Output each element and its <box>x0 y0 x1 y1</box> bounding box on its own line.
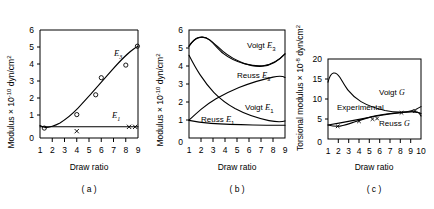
panel-c: Torsional modulus × 10-8 dyn/cm2 20 15 1… <box>293 0 434 209</box>
svg-text:4: 4 <box>357 146 362 156</box>
panel-b-curve-labels: Voigt E3 Reuss E3 Voigt E1 Reuss E1 <box>201 40 276 126</box>
panel-c-plot: Torsional modulus × 10-8 dyn/cm2 20 15 1… <box>293 0 434 209</box>
svg-text:7: 7 <box>111 145 116 155</box>
panel-b-caption: ( b ) <box>229 184 244 194</box>
svg-text:0: 0 <box>178 137 183 147</box>
panel-a-xlabel: Draw ratio <box>70 162 109 172</box>
panel-b-label-voigt-E3: Voigt E3 <box>247 40 276 52</box>
panel-c-ylabel: Torsional modulus × 10-8 dyn/cm2 <box>295 24 305 151</box>
svg-text:5: 5 <box>29 42 34 52</box>
panel-c-yticks: 20 15 10 5 0 <box>313 54 323 147</box>
svg-text:2: 2 <box>199 145 204 155</box>
svg-text:7: 7 <box>388 146 393 156</box>
panel-c-label-reuss-G: Reuss G <box>379 119 410 128</box>
svg-text:6: 6 <box>99 145 104 155</box>
svg-text:2: 2 <box>29 93 34 103</box>
panel-a-yticks: 6 5 4 3 2 1 0 <box>29 25 34 143</box>
svg-text:6: 6 <box>377 146 382 156</box>
svg-text:10: 10 <box>313 94 323 104</box>
svg-text:8: 8 <box>271 145 276 155</box>
svg-text:6: 6 <box>178 25 183 35</box>
panel-a-ylabel: Modulus × 10-10 dyn/cm2 <box>6 55 16 149</box>
svg-text:6: 6 <box>247 145 252 155</box>
svg-text:5: 5 <box>367 146 372 156</box>
svg-text:4: 4 <box>29 59 34 69</box>
panel-b: Modulus × 10-10 dyn/cm2 6 5 4 3 2 1 0 <box>145 0 293 209</box>
svg-text:9: 9 <box>408 146 413 156</box>
svg-text:5: 5 <box>317 114 322 124</box>
panel-a-label-E1: E1 <box>111 110 120 122</box>
panel-c-label-experimental: Experimental <box>337 103 384 112</box>
panel-c-caption: ( c ) <box>367 184 382 194</box>
svg-text:3: 3 <box>346 146 351 156</box>
three-panel-figure: Modulus × 10-10 dyn/cm2 6 5 4 3 2 1 0 <box>0 0 434 209</box>
panel-b-xtick-marks <box>201 138 273 142</box>
svg-text:4: 4 <box>178 61 183 71</box>
panel-a-label-E3: E3 <box>113 48 122 60</box>
svg-text:5: 5 <box>235 145 240 155</box>
panel-a: Modulus × 10-10 dyn/cm2 6 5 4 3 2 1 0 <box>0 0 145 209</box>
svg-text:1: 1 <box>187 145 192 155</box>
svg-text:2: 2 <box>50 145 55 155</box>
panel-a-plot: Modulus × 10-10 dyn/cm2 6 5 4 3 2 1 0 <box>0 0 145 209</box>
panel-b-label-voigt-E1: Voigt E1 <box>245 102 274 114</box>
svg-text:3: 3 <box>29 76 34 86</box>
svg-text:1: 1 <box>178 115 183 125</box>
svg-text:3: 3 <box>211 145 216 155</box>
panel-c-label-voigt-G: Voigt G <box>379 88 405 97</box>
panel-b-xticklabels: 1 2 3 4 5 6 7 8 9 <box>187 145 288 155</box>
svg-text:7: 7 <box>259 145 264 155</box>
panel-b-label-reuss-E3: Reuss E3 <box>237 70 271 82</box>
panel-a-series-E1-points <box>75 125 138 134</box>
svg-text:15: 15 <box>313 74 323 84</box>
panel-a-series-E3-curve <box>40 46 138 127</box>
svg-text:20: 20 <box>313 54 323 64</box>
svg-text:9: 9 <box>136 145 141 155</box>
svg-text:6: 6 <box>29 25 34 35</box>
svg-text:8: 8 <box>123 145 128 155</box>
panel-a-frame <box>40 30 138 138</box>
panel-c-xticklabels: 1 2 3 4 5 6 7 8 9 10 <box>326 146 426 156</box>
svg-text:10: 10 <box>416 146 426 156</box>
svg-text:0: 0 <box>29 133 34 143</box>
panel-b-xlabel: Draw ratio <box>218 162 257 172</box>
svg-text:3: 3 <box>178 79 183 89</box>
panel-b-ylabel: Modulus × 10-10 dyn/cm2 <box>155 53 165 147</box>
panel-b-plot: Modulus × 10-10 dyn/cm2 6 5 4 3 2 1 0 <box>145 0 293 209</box>
svg-text:5: 5 <box>87 145 92 155</box>
svg-text:4: 4 <box>223 145 228 155</box>
svg-text:9: 9 <box>283 145 288 155</box>
svg-text:1: 1 <box>29 110 34 120</box>
panel-c-xlabel: Draw ratio <box>355 162 394 172</box>
svg-text:5: 5 <box>178 43 183 53</box>
panel-c-xtick-marks <box>338 139 410 143</box>
svg-text:0: 0 <box>317 137 322 147</box>
panel-b-yticks: 6 5 4 3 2 1 0 <box>178 25 183 147</box>
svg-text:1: 1 <box>38 145 43 155</box>
svg-text:3: 3 <box>62 145 67 155</box>
svg-text:4: 4 <box>74 145 79 155</box>
panel-a-xtick-marks <box>52 138 126 142</box>
svg-text:2: 2 <box>178 97 183 107</box>
svg-text:2: 2 <box>336 146 341 156</box>
panel-a-xticklabels: 1 2 3 4 5 6 7 8 9 <box>38 145 141 155</box>
svg-text:1: 1 <box>326 146 331 156</box>
svg-text:8: 8 <box>398 146 403 156</box>
panel-a-caption: ( a ) <box>81 184 96 194</box>
